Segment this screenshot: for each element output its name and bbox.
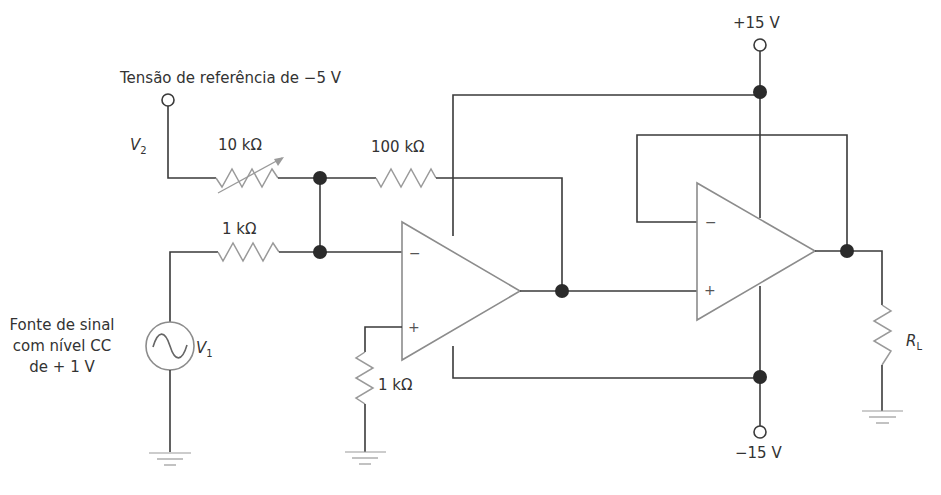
ground-resistor-1k xyxy=(356,352,373,404)
source-line-3: de + 1 V xyxy=(2,357,122,378)
junction-dot xyxy=(313,171,327,185)
opamp1-inverting-sign: − xyxy=(409,245,421,261)
v1-wire-top xyxy=(170,252,218,322)
vminus-terminal xyxy=(754,426,766,438)
circuit-diagram: Tensão de referência de −5 V V2 10 kΩ 10… xyxy=(0,0,941,495)
ground-icon xyxy=(345,452,386,464)
vplus-terminal xyxy=(754,39,766,51)
r-variable-label: 10 kΩ xyxy=(218,136,262,154)
input-resistor-1k xyxy=(218,243,279,261)
ac-source-icon xyxy=(146,322,194,370)
v1-label: V1 xyxy=(196,339,213,359)
source-line-1: Fonte de sinal xyxy=(2,315,122,336)
v2-label: V2 xyxy=(130,136,147,156)
noninverting-wire xyxy=(365,327,402,352)
junction-dot xyxy=(313,245,327,259)
source-line-2: com nível CC xyxy=(2,336,122,357)
rl-label: RL xyxy=(906,332,922,352)
variable-resistor-10k xyxy=(216,169,278,187)
vminus-label: −15 V xyxy=(735,444,782,462)
opamp1-vminus-wire xyxy=(453,346,760,378)
r-input-label: 1 kΩ xyxy=(222,220,256,238)
opamp-1 xyxy=(402,222,520,360)
ground-icon xyxy=(862,411,903,423)
opamp2-noninverting-sign: + xyxy=(704,282,716,298)
r-ground-label: 1 kΩ xyxy=(378,376,412,394)
junction-dot xyxy=(753,85,767,99)
vplus-label: +15 V xyxy=(733,14,780,32)
output-wire xyxy=(815,251,882,305)
junction-dot xyxy=(555,284,569,298)
reference-voltage-label: Tensão de referência de −5 V xyxy=(119,69,342,87)
load-resistor xyxy=(874,305,891,365)
v2-wire xyxy=(168,106,216,178)
junction-dot xyxy=(840,244,854,258)
ground-icon xyxy=(149,453,191,465)
v2-terminal xyxy=(162,94,174,106)
opamp-2 xyxy=(697,183,815,320)
source-description: Fonte de sinal com nível CC de + 1 V xyxy=(2,315,122,378)
opamp2-inverting-sign: − xyxy=(705,214,717,230)
opamp1-noninverting-sign: + xyxy=(408,319,420,335)
feedback-resistor-100k xyxy=(376,169,436,187)
r-feedback-label: 100 kΩ xyxy=(371,138,425,156)
junction-dot xyxy=(753,370,767,384)
